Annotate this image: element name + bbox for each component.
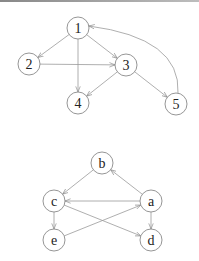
edge-1-to-3	[87, 35, 118, 59]
node-b: b	[91, 152, 113, 174]
node-label: a	[148, 194, 155, 209]
node-label: c	[51, 194, 57, 209]
node-a: a	[140, 190, 162, 212]
node-1: 1	[67, 17, 89, 39]
node-d: d	[140, 229, 162, 251]
edge-3-to-4	[87, 72, 118, 96]
edge-3-to-5	[135, 72, 168, 97]
edge-2-to-3	[40, 64, 115, 65]
node-5: 5	[165, 93, 187, 115]
node-label: 1	[75, 21, 82, 36]
node-label: d	[148, 233, 155, 248]
node-c: c	[43, 190, 65, 212]
node-label: 4	[75, 96, 82, 111]
node-label: b	[99, 156, 106, 171]
graph-canvas: 12345bcaed	[0, 0, 199, 261]
edge-1-to-2	[38, 35, 69, 58]
edge-b-to-c	[63, 170, 94, 194]
edge-a-to-b	[111, 170, 143, 195]
node-4: 4	[67, 92, 89, 114]
node-e: e	[43, 229, 65, 251]
node-label: 3	[123, 58, 130, 73]
node-3: 3	[115, 54, 137, 76]
node-label: 5	[173, 97, 180, 112]
node-label: 2	[26, 57, 33, 72]
node-2: 2	[18, 53, 40, 75]
node-label: e	[51, 233, 57, 248]
